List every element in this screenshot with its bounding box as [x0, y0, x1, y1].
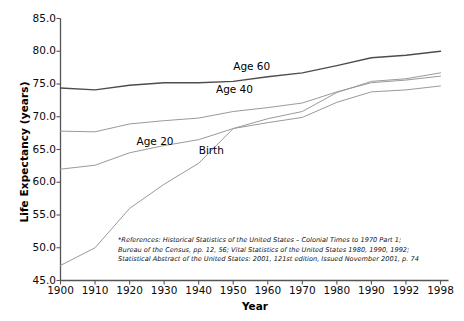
references-footnote: *References: Historical Statistics of th…	[118, 236, 448, 265]
x-axis-title: Year	[60, 300, 450, 312]
y-axis-tick-label: 60.0	[12, 176, 56, 187]
series-line-age-20	[61, 86, 441, 169]
life-expectancy-line-chart: Life Expectancy (years) 45.050.055.060.0…	[0, 0, 464, 321]
series-label-age-20: Age 20	[137, 135, 174, 147]
series-label-age-40: Age 40	[216, 83, 253, 95]
footnote-line-2: Bureau of the Census, pp. 12, 56; Vital …	[118, 246, 448, 256]
y-axis-tick-label: 70.0	[12, 111, 56, 122]
y-axis-tick-label: 80.0	[12, 45, 56, 56]
y-axis-tick-label: 55.0	[12, 209, 56, 220]
series-label-birth: Birth	[199, 144, 224, 156]
plot-area	[0, 0, 464, 321]
y-axis-tick-label: 65.0	[12, 144, 56, 155]
y-axis-tick-label: 85.0	[12, 13, 56, 24]
y-axis-tick-label: 50.0	[12, 242, 56, 253]
y-axis-tick-labels: 45.050.055.060.065.070.075.080.085.0	[8, 0, 56, 321]
x-axis-tick-label: 1998	[418, 284, 464, 296]
series-label-age-60: Age 60	[233, 60, 270, 72]
footnote-line-1: *References: Historical Statistics of th…	[118, 236, 448, 246]
footnote-line-3: Statistical Abstract of the United State…	[118, 255, 448, 265]
y-axis-tick-label: 75.0	[12, 78, 56, 89]
